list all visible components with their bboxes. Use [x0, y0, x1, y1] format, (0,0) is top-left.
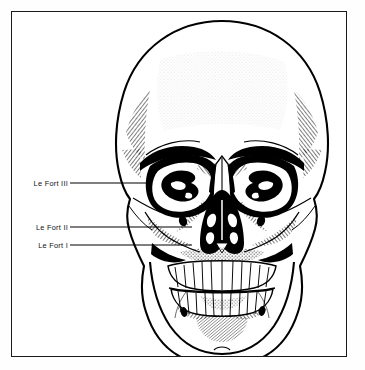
callout-label-le-fort-ii: Le Fort II — [0, 223, 68, 232]
callout-label-le-fort-iii: Le Fort III — [0, 179, 68, 188]
callout-label-le-fort-i: Le Fort I — [0, 241, 68, 250]
figure-root: Le Fort III Le Fort II Le Fort I — [0, 0, 365, 370]
